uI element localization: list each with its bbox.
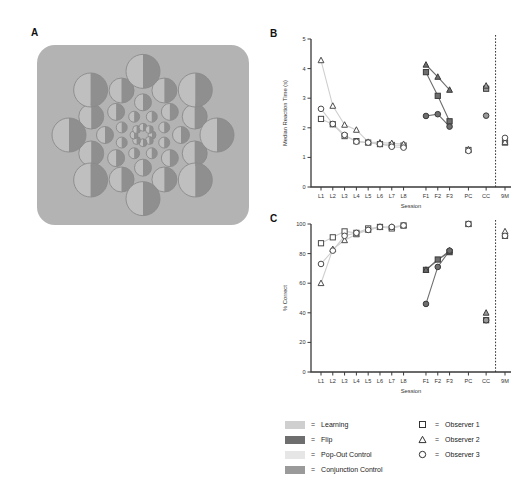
y-axis-title: Median Reaction Time (s) bbox=[282, 80, 288, 146]
x-tick-label: L5 bbox=[365, 193, 371, 199]
stimulus-element bbox=[161, 150, 178, 167]
x-tick-label: 9M bbox=[501, 193, 509, 199]
legend-condition-row-1: = Flip bbox=[285, 433, 332, 446]
stimulus-element bbox=[178, 73, 212, 107]
data-point-circle-F2 bbox=[435, 111, 441, 117]
y-tick-label: 2 bbox=[302, 125, 305, 131]
data-point-triangle-CC bbox=[483, 83, 489, 89]
data-point-circle-L2 bbox=[330, 248, 336, 254]
x-tick-label: F2 bbox=[435, 378, 442, 384]
y-tick-label: 0 bbox=[302, 369, 305, 375]
x-tick-label: L7 bbox=[389, 378, 395, 384]
series-line-observer-2 bbox=[321, 60, 404, 144]
stimulus-element bbox=[159, 137, 170, 148]
x-tick-label: 9M bbox=[501, 378, 509, 384]
chart-panel-c-percent-correct: 020406080100% CorrectL1L2L3L4L5L6L7L8F1F… bbox=[265, 210, 517, 400]
data-point-triangle-L1 bbox=[318, 280, 324, 286]
data-point-square-F3 bbox=[447, 119, 452, 124]
legend-label-observer-3: Observer 3 bbox=[445, 451, 480, 458]
x-tick-label: L1 bbox=[318, 378, 324, 384]
legend-swatch-learning bbox=[285, 421, 305, 429]
stimulus-element bbox=[74, 73, 108, 107]
stimulus-element bbox=[52, 118, 86, 152]
series-line-observer-2 bbox=[321, 225, 404, 283]
legend-equals-0: = bbox=[311, 421, 315, 428]
data-point-circle-L1 bbox=[318, 106, 324, 112]
x-tick-label: F3 bbox=[446, 378, 453, 384]
data-point-circle-L4 bbox=[354, 230, 360, 236]
x-tick-label: L5 bbox=[365, 378, 371, 384]
stimulus-element bbox=[146, 148, 157, 159]
y-tick-label: 80 bbox=[299, 251, 305, 257]
data-point-circle-L7 bbox=[389, 224, 395, 230]
x-tick-label: L6 bbox=[377, 378, 383, 384]
panel-a-letter: A bbox=[31, 27, 38, 38]
stimulus-element bbox=[74, 163, 108, 197]
stimulus-element bbox=[116, 122, 127, 133]
x-tick-label: L7 bbox=[389, 193, 395, 199]
stimulus-element bbox=[126, 54, 160, 88]
data-point-circle-9M bbox=[502, 135, 508, 141]
legend-equals-1: = bbox=[311, 436, 315, 443]
x-tick-label: F2 bbox=[435, 193, 442, 199]
data-point-circle-PC bbox=[466, 221, 472, 227]
stimulus-svg bbox=[37, 45, 249, 225]
data-point-circle-L1 bbox=[318, 261, 324, 267]
x-tick-label: F1 bbox=[423, 193, 430, 199]
stimulus-element bbox=[135, 159, 152, 176]
legend-observer-row-1: = Observer 2 bbox=[415, 433, 480, 446]
data-point-circle-F1 bbox=[423, 301, 429, 307]
triangle-marker-icon bbox=[415, 435, 429, 444]
x-tick-label: CC bbox=[482, 193, 490, 199]
data-point-square-L2 bbox=[330, 235, 335, 240]
legend-label-learning: Learning bbox=[321, 421, 348, 428]
legend-condition-row-0: = Learning bbox=[285, 418, 348, 431]
x-tick-label: L1 bbox=[318, 193, 324, 199]
x-tick-label: L2 bbox=[330, 378, 336, 384]
y-axis-title: % Correct bbox=[282, 285, 288, 311]
data-point-circle-F2 bbox=[435, 264, 441, 270]
stimulus-element bbox=[173, 127, 190, 144]
legend-equals-2: = bbox=[311, 451, 315, 458]
data-point-circle-L8 bbox=[401, 223, 407, 229]
data-point-circle-L3 bbox=[342, 132, 348, 138]
data-point-triangle-CC bbox=[483, 310, 489, 316]
data-point-circle-L5 bbox=[365, 140, 371, 146]
legend-equals-6: = bbox=[435, 451, 439, 458]
stimulus-element bbox=[108, 103, 125, 120]
panel-b-plot: 012345Median Reaction Time (s)L1L2L3L4L5… bbox=[265, 25, 517, 215]
legend-observer-row-0: = Observer 1 bbox=[415, 418, 480, 431]
x-tick-label: L6 bbox=[377, 193, 383, 199]
axis-lines bbox=[311, 39, 511, 187]
data-point-triangle-L1 bbox=[318, 57, 324, 63]
y-tick-label: 100 bbox=[296, 221, 305, 227]
x-tick-label: L3 bbox=[341, 193, 347, 199]
y-tick-label: 1 bbox=[302, 154, 305, 160]
data-point-circle-L2 bbox=[330, 121, 336, 127]
square-marker-icon bbox=[415, 420, 429, 429]
stimulus-element bbox=[178, 163, 212, 197]
axis-lines bbox=[311, 224, 511, 372]
y-tick-label: 0 bbox=[302, 184, 305, 190]
stimulus-element bbox=[200, 118, 234, 152]
x-axis-title: Session bbox=[401, 203, 422, 209]
chart-panel-b-median-reaction-time: 012345Median Reaction Time (s)L1L2L3L4L5… bbox=[265, 25, 517, 215]
x-tick-label: L2 bbox=[330, 193, 336, 199]
stimulus-element bbox=[126, 182, 160, 216]
stimulus-element bbox=[108, 150, 125, 167]
stimulus-element bbox=[97, 127, 114, 144]
legend-condition-row-3: = Conjunction Control bbox=[285, 463, 383, 476]
circle-marker-icon bbox=[415, 450, 429, 459]
data-point-circle-L8 bbox=[401, 145, 407, 151]
data-point-square-L1 bbox=[318, 116, 323, 121]
legend-condition-row-2: = Pop-Out Control bbox=[285, 448, 372, 461]
legend-swatch-conjunction-control bbox=[285, 466, 305, 474]
legend-swatch-pop-out-control bbox=[285, 451, 305, 459]
x-tick-label: F1 bbox=[423, 378, 430, 384]
figure-legend: = Learning = Flip = Pop-Out Control = Co… bbox=[285, 418, 517, 482]
stimulus-element bbox=[161, 103, 178, 120]
data-point-circle-9M bbox=[502, 233, 508, 239]
data-point-circle-L3 bbox=[342, 233, 348, 239]
data-point-circle-PC bbox=[466, 148, 472, 154]
data-point-circle-CC bbox=[483, 113, 489, 119]
